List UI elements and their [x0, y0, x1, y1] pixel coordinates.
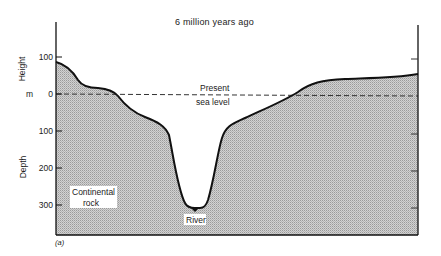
- continental-rock-fill: [56, 62, 418, 235]
- sea-level-label-present: Present: [200, 83, 229, 93]
- rock-label-continental: Continental: [72, 187, 115, 197]
- axis-label-depth: Depth: [18, 156, 28, 179]
- sea-level-label-sea-level: sea level: [196, 97, 230, 107]
- canyon-cross-section-diagram: [0, 0, 441, 256]
- tick-label-height-100: 100: [31, 52, 53, 62]
- tick-label-depth-100: 100: [31, 126, 53, 136]
- tick-label-depth-200: 200: [31, 163, 53, 173]
- tick-label-depth-300: 300: [31, 200, 53, 210]
- axis-label-height: Height: [17, 57, 27, 82]
- panel-label: (a): [55, 238, 64, 248]
- tick-label-0: 0: [31, 89, 53, 99]
- river-label: River: [186, 215, 206, 225]
- rock-label-rock: rock: [83, 198, 99, 208]
- diagram-title: 6 million years ago: [175, 17, 254, 27]
